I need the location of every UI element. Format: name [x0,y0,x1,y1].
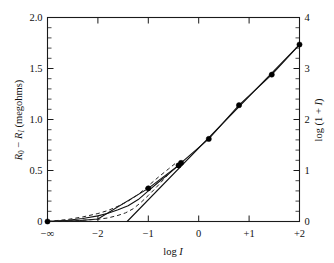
svg-text:log (1 + I): log (1 + I) [313,98,325,141]
right-tick-label: 1 [305,165,310,176]
svg-text:log I: log I [163,246,183,257]
data-point [146,186,151,191]
data-curves [48,45,300,222]
series-theoretical-upper-dashed [48,163,177,222]
data-markers [45,42,302,224]
bottom-tick-label: +1 [244,228,255,239]
series-observed [48,45,300,222]
data-point [297,42,302,47]
left-tick-label: 1.0 [29,114,42,125]
series-theoretical-solid [48,165,179,221]
right-tick-label: 4 [305,12,311,23]
figure-container: 00.51.01.52.0 01234 −∞−2−10+1+2 R0 − RI … [0,0,334,263]
right-tick-label: 2 [305,114,310,125]
bottom-tick-label: −2 [92,228,103,239]
right-axis-title: log (1 + I) [313,98,325,141]
left-axis-ticks [48,18,54,222]
bottom-tick-label: −∞ [41,228,54,239]
left-axis-title: R0 − RI (megohms) [13,79,26,161]
plot-frame [48,18,300,222]
left-tick-label: 2.0 [29,12,42,23]
chart-plot: 00.51.01.52.0 01234 −∞−2−10+1+2 R0 − RI … [0,0,334,263]
bottom-tick-label: +2 [294,228,305,239]
data-point [178,160,183,165]
right-tick-labels: 01234 [305,12,311,227]
left-tick-label: 1.5 [29,63,42,74]
bottom-tick-label: 0 [196,228,201,239]
data-point [269,72,274,77]
bottom-tick-labels: −∞−2−10+1+2 [41,228,305,239]
bottom-tick-label: −1 [143,228,154,239]
left-tick-label: 0 [37,216,42,227]
data-point [236,103,241,108]
left-tick-label: 0.5 [29,165,42,176]
data-point [45,219,50,224]
top-axis-ticks [98,18,300,24]
series-theoretical-lower-dashed [48,172,171,222]
right-tick-label: 3 [305,63,310,74]
svg-text:R0 − RI (megohms): R0 − RI (megohms) [13,79,26,161]
series-asymptote-line [127,45,299,222]
right-tick-label: 0 [305,216,310,227]
bottom-axis-title: log I [163,246,183,257]
data-point [206,136,211,141]
left-tick-labels: 00.51.01.52.0 [29,12,42,227]
